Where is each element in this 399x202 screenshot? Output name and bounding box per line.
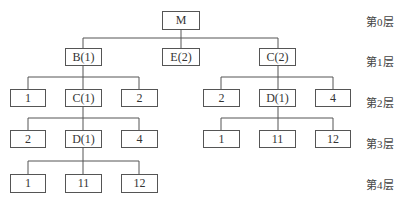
level-label-4: 第4层 <box>366 176 394 192</box>
node-left-l2-2: 2 <box>121 89 158 107</box>
node-right-d1: D(1) <box>259 89 296 107</box>
node-left-l4-11: 11 <box>65 174 102 193</box>
level-label-0: 第0层 <box>366 13 394 29</box>
node-left-l4-12: 12 <box>121 174 158 193</box>
node-e2: E(2) <box>162 48 200 66</box>
node-left-d1: D(1) <box>65 130 102 148</box>
node-left-l2-1: 1 <box>10 89 46 107</box>
node-right-l2-4: 4 <box>315 89 351 107</box>
node-c2: C(2) <box>259 48 296 66</box>
level-label-1: 第1层 <box>366 53 394 69</box>
node-right-l3-11: 11 <box>259 130 296 148</box>
tree-diagram: M B(1) E(2) C(2) 1 C(1) 2 2 D(1) 4 1 11 … <box>0 0 399 202</box>
level-label-2: 第2层 <box>366 94 394 110</box>
node-left-l3-4: 4 <box>121 130 158 148</box>
node-right-l3-1: 1 <box>203 130 240 148</box>
node-root: M <box>162 11 200 30</box>
node-left-l4-1: 1 <box>10 174 46 193</box>
node-right-l3-12: 12 <box>315 130 351 148</box>
node-b1: B(1) <box>65 48 102 66</box>
level-label-3: 第3层 <box>366 135 394 151</box>
node-left-l3-2: 2 <box>10 130 46 148</box>
node-right-l2-2: 2 <box>203 89 240 107</box>
node-c1: C(1) <box>65 89 102 107</box>
